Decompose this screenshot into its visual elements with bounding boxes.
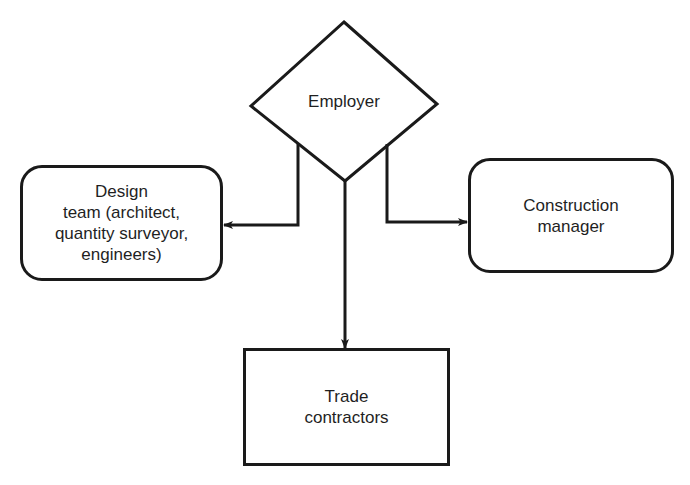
construction-manager-label: Construction manager <box>523 195 618 237</box>
connector-employer-to-construction-manager <box>387 144 467 222</box>
employer-node-label: Employer <box>251 92 437 112</box>
trade-contractors-label: Trade contractors <box>304 386 388 428</box>
construction-manager-node: Construction manager <box>468 158 674 273</box>
trade-contractors-node: Trade contractors <box>243 348 450 466</box>
connector-employer-to-design-team <box>224 144 298 225</box>
design-team-label: Design team (architect, quantity surveyo… <box>55 181 188 265</box>
design-team-node: Design team (architect, quantity surveyo… <box>20 165 223 281</box>
